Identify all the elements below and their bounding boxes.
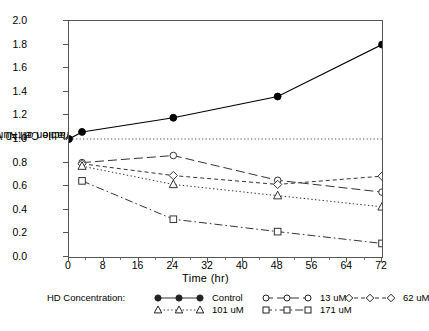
legend-key-open-triangle-icon bbox=[154, 304, 210, 315]
data-point bbox=[79, 178, 86, 185]
legend-marker bbox=[176, 295, 182, 301]
data-point bbox=[274, 93, 281, 100]
y-tick-label: 0.4 bbox=[0, 204, 27, 214]
series-13-um bbox=[79, 152, 382, 195]
y-tick-label: 1.0 bbox=[0, 133, 27, 143]
plot-area bbox=[68, 20, 383, 258]
series-line bbox=[82, 156, 382, 193]
legend-label: Control bbox=[212, 292, 243, 303]
legend-key-open-square-icon bbox=[262, 304, 318, 315]
data-point bbox=[170, 114, 177, 121]
legend-marker bbox=[175, 306, 182, 313]
data-point bbox=[378, 202, 382, 210]
legend-marker bbox=[305, 295, 311, 301]
data-point bbox=[79, 129, 86, 136]
legend-marker bbox=[154, 306, 161, 313]
legend-key-open-circle-icon bbox=[262, 292, 318, 303]
y-tick-label: 0.0 bbox=[0, 251, 27, 261]
legend-marker bbox=[387, 294, 395, 302]
y-tick-label: 0.6 bbox=[0, 180, 27, 190]
y-tick-label: 1.6 bbox=[0, 62, 27, 72]
legend-key-open-diamond-icon bbox=[345, 292, 401, 303]
data-point bbox=[379, 189, 382, 196]
legend-marker bbox=[305, 307, 311, 313]
legend-marker bbox=[263, 295, 269, 301]
legend-label: 101 uM bbox=[212, 304, 244, 315]
data-point bbox=[274, 228, 281, 235]
series-line bbox=[69, 45, 382, 139]
legend-marker bbox=[284, 307, 290, 313]
legend-label: 62 uM bbox=[403, 292, 429, 303]
x-axis-title: Time (hr) bbox=[0, 272, 411, 284]
y-tick-label: 2.0 bbox=[0, 15, 27, 25]
data-point bbox=[379, 240, 382, 247]
data-point bbox=[379, 41, 382, 48]
y-tick-label: 1.2 bbox=[0, 109, 27, 119]
y-tick-label: 0.8 bbox=[0, 157, 27, 167]
data-point bbox=[170, 152, 177, 159]
data-point bbox=[170, 216, 177, 223]
data-point bbox=[169, 171, 177, 179]
series-line bbox=[82, 164, 382, 185]
legend-label: 13 uM bbox=[320, 292, 346, 303]
legend-title: HD Concentration: bbox=[47, 292, 125, 303]
legend-marker bbox=[345, 294, 353, 302]
legend-key-filled-circle-icon bbox=[154, 292, 210, 303]
series-line bbox=[82, 166, 382, 207]
data-point bbox=[169, 180, 177, 188]
legend: HD Concentration: Control13 uM62 uM101 u… bbox=[0, 290, 411, 318]
series-control bbox=[69, 41, 382, 142]
series-171-um bbox=[79, 178, 382, 247]
legend-marker bbox=[155, 295, 161, 301]
legend-marker bbox=[197, 295, 203, 301]
y-tick-label: 1.4 bbox=[0, 86, 27, 96]
legend-marker bbox=[366, 294, 374, 302]
data-point bbox=[69, 136, 72, 143]
legend-marker bbox=[263, 307, 269, 313]
data-point bbox=[378, 172, 382, 180]
legend-label: 171 uM bbox=[320, 304, 352, 315]
y-tick-label: 1.8 bbox=[0, 39, 27, 49]
plot-svg bbox=[69, 21, 382, 257]
legend-marker bbox=[284, 295, 290, 301]
y-tick-label: 0.2 bbox=[0, 227, 27, 237]
legend-marker bbox=[196, 306, 203, 313]
